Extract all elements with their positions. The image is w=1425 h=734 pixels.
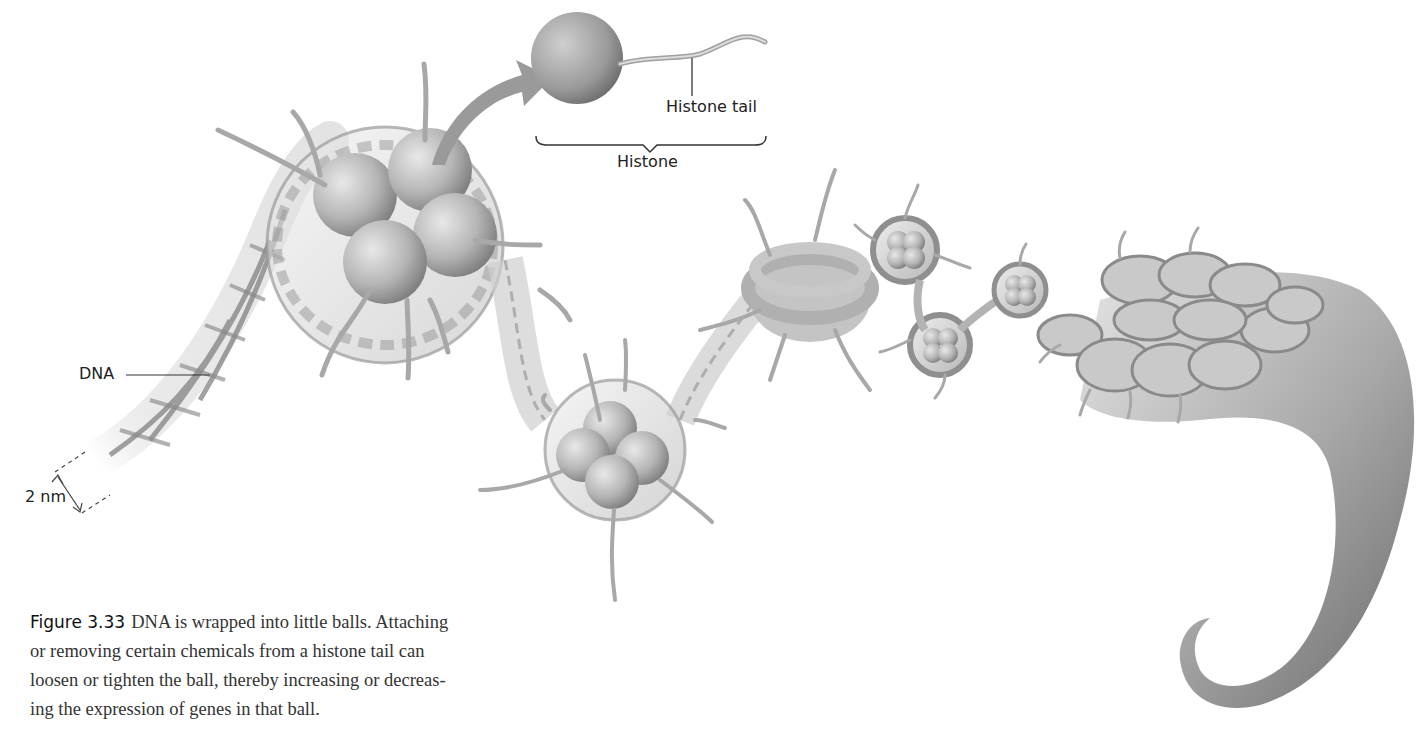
scale-label: 2 nm xyxy=(25,487,66,506)
figure-caption: Figure 3.33DNA is wrapped into little ba… xyxy=(30,608,570,724)
histone-label: Histone xyxy=(617,152,678,171)
caption-line-2: or removing certain chemicals from a his… xyxy=(30,641,425,661)
histone-tail-label: Histone tail xyxy=(666,97,757,116)
nucleosome-chain xyxy=(700,170,1046,398)
caption-line-1: DNA is wrapped into little balls. Attach… xyxy=(131,612,448,632)
condensed-chromosome xyxy=(1038,228,1414,708)
dna-label: DNA xyxy=(79,364,114,383)
arrow-to-histone xyxy=(432,60,552,165)
caption-line-4: ing the expression of genes in that ball… xyxy=(30,699,320,719)
figure-number: Figure 3.33 xyxy=(30,612,125,632)
histone-inset xyxy=(531,12,766,152)
caption-line-3: loosen or tighten the ball, thereby incr… xyxy=(30,670,446,690)
